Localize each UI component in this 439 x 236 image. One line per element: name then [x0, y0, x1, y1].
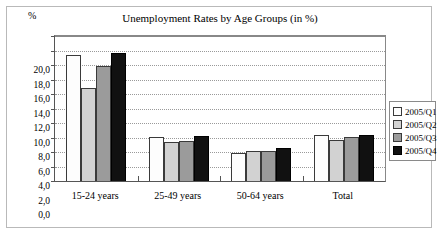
bar — [149, 137, 164, 181]
bar — [261, 151, 276, 181]
legend-label: 2005/Q2 — [405, 120, 437, 130]
x-axis-tick-mark — [220, 176, 221, 181]
bar-group — [220, 36, 303, 181]
bar — [81, 88, 96, 181]
y-axis-labels: 0,02,04,06,08,010,012,014,016,018,020,0 — [0, 35, 50, 182]
bar — [111, 53, 126, 181]
x-axis-tick-label: 50-64 years — [237, 190, 284, 201]
y-axis-tick-label: 2,0 — [6, 196, 50, 206]
bar — [66, 55, 81, 181]
bar — [359, 135, 374, 181]
bar-group — [303, 36, 386, 181]
y-axis-tick-label: 12,0 — [6, 123, 50, 133]
bar — [314, 135, 329, 181]
chart-title: Unemployment Rates by Age Groups (in %) — [60, 12, 380, 24]
legend-label: 2005/Q3 — [405, 133, 437, 143]
gridline — [55, 181, 385, 182]
legend-label: 2005/Q4 — [405, 146, 437, 156]
bar — [246, 151, 261, 181]
legend-swatch-icon — [393, 133, 402, 142]
bar — [329, 140, 344, 181]
x-axis-tick-label: Total — [333, 190, 353, 201]
bar — [164, 142, 179, 181]
legend-label: 2005/Q1 — [405, 107, 437, 117]
y-axis-tick-label: 8,0 — [6, 152, 50, 162]
bar — [344, 137, 359, 181]
chart-legend: 2005/Q12005/Q22005/Q32005/Q4 — [389, 101, 436, 161]
x-axis-tick-label: 25-49 years — [154, 190, 201, 201]
bar-group — [55, 36, 138, 181]
legend-item: 2005/Q3 — [393, 131, 433, 144]
bar — [194, 136, 209, 181]
y-axis-tick-mark — [51, 181, 55, 182]
legend-item: 2005/Q2 — [393, 118, 433, 131]
bar — [96, 66, 111, 181]
chart-figure: % Unemployment Rates by Age Groups (in %… — [0, 0, 439, 236]
legend-swatch-icon — [393, 146, 402, 155]
y-axis-tick-label: 20,0 — [6, 65, 50, 75]
bar — [179, 141, 194, 181]
y-axis-tick-label: 4,0 — [6, 181, 50, 191]
legend-item: 2005/Q1 — [393, 105, 433, 118]
y-axis-tick-label: 14,0 — [6, 109, 50, 119]
bar — [276, 148, 291, 181]
x-axis-tick-mark — [138, 176, 139, 181]
legend-swatch-icon — [393, 120, 402, 129]
legend-swatch-icon — [393, 107, 402, 116]
y-axis-tick-label: 16,0 — [6, 94, 50, 104]
y-axis-tick-label: 18,0 — [6, 80, 50, 90]
bar-group — [138, 36, 221, 181]
y-axis-unit-label: % — [28, 10, 37, 21]
legend-item: 2005/Q4 — [393, 144, 433, 157]
y-axis-tick-label: 10,0 — [6, 138, 50, 148]
y-axis-tick-label: 6,0 — [6, 167, 50, 177]
bar — [231, 153, 246, 181]
y-axis-tick-label: 0,0 — [6, 210, 50, 220]
x-axis-tick-label: 15-24 years — [72, 190, 119, 201]
plot-area — [54, 35, 386, 182]
x-axis-tick-mark — [303, 176, 304, 181]
